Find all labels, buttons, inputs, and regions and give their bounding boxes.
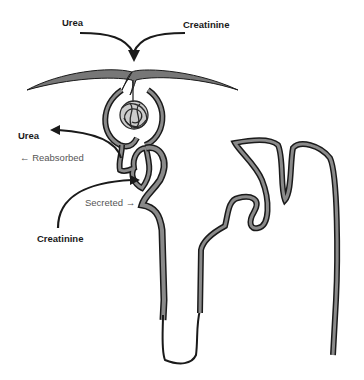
- urea-arrowhead: [50, 125, 60, 135]
- label-creatinine-top: Creatinine: [183, 19, 229, 30]
- nephron-diagram: [0, 0, 364, 380]
- incoming-arrows: [80, 33, 185, 52]
- label-urea-left: Urea: [18, 130, 39, 141]
- down-arrowhead: [128, 50, 140, 62]
- loop-of-henle: [163, 310, 201, 363]
- label-urea-top: Urea: [62, 17, 83, 28]
- label-creatinine-bottom: Creatinine: [37, 233, 83, 244]
- distal-tubule: [200, 140, 337, 355]
- label-reabsorbed: ← Reabsorbed: [20, 152, 84, 163]
- label-secreted: Secreted →: [85, 197, 135, 208]
- glomerulus: [120, 80, 148, 129]
- proximal-tubule: [119, 145, 164, 320]
